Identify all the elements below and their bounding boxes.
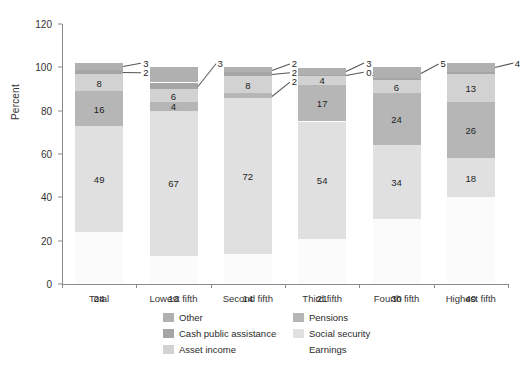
leader-line <box>272 63 290 70</box>
bar-value-label-callout: 2 <box>143 67 148 78</box>
x-tick-label-second-fifth: Second fifth <box>223 293 273 304</box>
bar-group-third-fifth[interactable]: 2154174 <box>298 0 346 284</box>
legend-label: Social security <box>309 328 370 339</box>
y-tick-mark <box>58 154 62 155</box>
bar-segment-earnings[interactable] <box>447 197 495 284</box>
legend-label: Cash public assistance <box>179 328 276 339</box>
leader-line <box>272 72 290 75</box>
legend-swatch-icon <box>293 313 304 322</box>
y-tick-label: 80 <box>22 105 52 116</box>
bar-segment-pensions[interactable] <box>447 102 495 158</box>
legend-item-earnings[interactable]: Earnings <box>293 344 393 355</box>
legend-item-asset-income[interactable]: Asset income <box>163 344 293 355</box>
x-tick-label-third-fifth: Third fifth <box>302 293 342 304</box>
bar-segment-pensions[interactable] <box>298 85 346 122</box>
legend-swatch-icon <box>163 329 174 338</box>
x-tick-label-fourth-fifth: Fourth fifth <box>374 293 419 304</box>
bar-segment-earnings[interactable] <box>150 256 198 284</box>
leader-line <box>123 63 141 67</box>
bar-segment-earnings[interactable] <box>224 254 272 284</box>
x-tick-mark <box>211 284 212 288</box>
legend-swatch-icon <box>293 329 304 338</box>
bar-value-label-callout: 4 <box>515 58 520 69</box>
bar-segment-social-security[interactable] <box>75 126 123 232</box>
bar-segment-asset-income[interactable] <box>224 76 272 93</box>
bar-value-label-callout: 5 <box>441 58 446 69</box>
y-axis-title: Percent <box>10 84 21 120</box>
bar-segment-cash-public-assistance[interactable] <box>150 83 198 90</box>
bar-segment-pensions[interactable] <box>373 93 421 145</box>
x-tick-mark <box>359 284 360 288</box>
bar-segment-asset-income[interactable] <box>373 80 421 93</box>
bar-segment-social-security[interactable] <box>373 145 421 219</box>
bar-segment-other[interactable] <box>224 67 272 71</box>
bar-segment-other[interactable] <box>373 67 421 78</box>
bar-segment-social-security[interactable] <box>298 122 346 239</box>
y-tick-label: 0 <box>22 279 52 290</box>
leader-line <box>123 72 141 73</box>
bar-group-total[interactable]: 2449168 <box>75 0 123 284</box>
legend-swatch-icon <box>163 345 174 354</box>
legend-item-pensions[interactable]: Pensions <box>293 312 393 323</box>
bar-segment-other[interactable] <box>298 68 346 75</box>
bar-segment-pensions[interactable] <box>224 93 272 97</box>
bar-value-label-callout: 2 <box>292 76 297 87</box>
bar-segment-earnings[interactable] <box>373 219 421 284</box>
bar-segment-social-security[interactable] <box>150 111 198 256</box>
y-tick-label: 100 <box>22 62 52 73</box>
x-tick-label-total: Total <box>89 293 109 304</box>
x-tick-mark <box>434 284 435 288</box>
legend-item-social-security[interactable]: Social security <box>293 328 393 339</box>
y-tick-label: 120 <box>22 19 52 30</box>
bar-segment-cash-public-assistance[interactable] <box>298 75 346 76</box>
y-tick-label: 20 <box>22 235 52 246</box>
bar-segment-cash-public-assistance[interactable] <box>75 70 123 74</box>
legend-item-other[interactable]: Other <box>163 312 293 323</box>
leader-line <box>346 72 364 76</box>
bar-segment-other[interactable] <box>447 63 495 72</box>
bar-segment-other[interactable] <box>75 63 123 70</box>
bar-segment-pensions[interactable] <box>75 91 123 126</box>
bar-segment-social-security[interactable] <box>447 158 495 197</box>
legend-item-cash-public-assistance[interactable]: Cash public assistance <box>163 328 293 339</box>
bar-segment-cash-public-assistance[interactable] <box>373 78 421 80</box>
bar-segment-asset-income[interactable] <box>75 74 123 91</box>
bar-segment-earnings[interactable] <box>75 232 123 284</box>
y-axis-line <box>62 24 63 284</box>
x-tick-mark <box>508 284 509 288</box>
x-tick-label-lowest-fifth: Lowest fifth <box>149 293 197 304</box>
y-tick-mark <box>58 110 62 111</box>
bar-segment-asset-income[interactable] <box>447 74 495 102</box>
leader-line <box>272 81 291 96</box>
legend-swatch-icon <box>163 313 174 322</box>
bar-segment-social-security[interactable] <box>224 98 272 254</box>
y-tick-mark <box>58 67 62 68</box>
bar-segment-asset-income[interactable] <box>150 89 198 102</box>
bar-segment-pensions[interactable] <box>150 102 198 111</box>
x-tick-label-highest-fifth: Highest fifth <box>446 293 496 304</box>
x-tick-mark <box>136 284 137 288</box>
bar-segment-other[interactable] <box>150 67 198 82</box>
bar-segment-cash-public-assistance[interactable] <box>224 72 272 76</box>
leader-line <box>495 63 513 68</box>
bar-segment-asset-income[interactable] <box>298 76 346 85</box>
bar-group-fourth-fifth[interactable]: 3034246 <box>373 0 421 284</box>
bar-group-lowest-fifth[interactable]: 136746 <box>150 0 198 284</box>
y-tick-mark <box>58 240 62 241</box>
bar-value-label-callout: 3 <box>218 58 223 69</box>
y-tick-mark <box>58 197 62 198</box>
legend-label: Other <box>179 312 203 323</box>
y-tick-label: 60 <box>22 149 52 160</box>
y-tick-mark <box>58 24 62 25</box>
bar-segment-cash-public-assistance[interactable] <box>447 72 495 74</box>
bar-segment-earnings[interactable] <box>298 239 346 285</box>
y-tick-label: 40 <box>22 192 52 203</box>
legend-swatch-icon <box>293 345 304 354</box>
leader-line <box>420 63 438 74</box>
bar-group-highest-fifth[interactable]: 40182613 <box>447 0 495 284</box>
legend-label: Earnings <box>309 344 347 355</box>
legend-label: Asset income <box>179 344 236 355</box>
x-tick-mark <box>285 284 286 288</box>
bar-group-second-fifth[interactable]: 14728 <box>224 0 272 284</box>
